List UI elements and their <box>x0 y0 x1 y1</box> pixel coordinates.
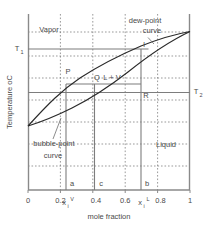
region-label-two-phase: L + V <box>103 73 120 82</box>
T2-subscript: 2 <box>199 92 202 98</box>
T2-base: T <box>194 87 199 96</box>
point-label-Q: Q <box>94 73 100 82</box>
x-vapor-subscript: i <box>67 203 68 209</box>
point-label-R: R <box>143 91 149 100</box>
x-vapor-superscript: V <box>70 196 74 202</box>
vle-phase-diagram: 0 0.2 0.4 0.6 0.8 1 x i V x i L mole fra… <box>0 0 211 227</box>
bubble-point-label-line1: bubble-point <box>33 139 75 148</box>
x-liquid-base: x <box>138 198 142 207</box>
x-liquid-superscript: L <box>146 196 149 202</box>
x-vapor-base: x <box>62 198 66 207</box>
phase-diagram-figure: 0 0.2 0.4 0.6 0.8 1 x i V x i L mole fra… <box>0 0 211 227</box>
tick-label-x-1: 1 <box>188 196 192 205</box>
dew-point-label-line1: dew-point <box>129 16 162 25</box>
T1-base: T <box>15 44 20 53</box>
x-axis-title: mole fraction <box>88 212 131 221</box>
dropline-label-c: c <box>99 179 103 188</box>
tick-label-x-0.8: 0.8 <box>155 196 165 205</box>
y-axis-title: Temperature oC <box>5 75 14 129</box>
T1-subscript: 1 <box>20 49 23 55</box>
dropline-label-b: b <box>145 179 149 188</box>
dew-point-label-line2: curve <box>143 26 161 35</box>
tick-label-x-0.6: 0.6 <box>120 196 130 205</box>
region-label-vapor: Vapor <box>39 25 59 34</box>
tick-label-x-0.4: 0.4 <box>91 196 101 205</box>
tick-label-x-0: 0 <box>26 196 30 205</box>
point-label-P: P <box>65 67 70 76</box>
x-liquid-subscript: i <box>143 203 144 209</box>
bubble-point-label-line2: curve <box>44 151 62 160</box>
region-label-liquid: Liquid <box>156 140 176 149</box>
